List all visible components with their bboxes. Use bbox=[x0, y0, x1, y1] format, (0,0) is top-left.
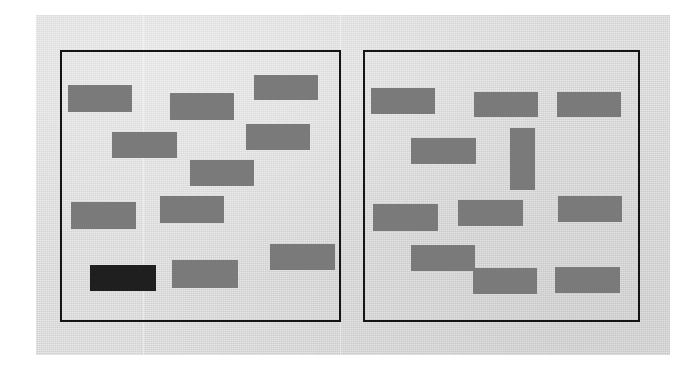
redacted-block bbox=[68, 85, 132, 112]
redacted-block bbox=[170, 93, 234, 120]
figure-root bbox=[0, 0, 695, 376]
redacted-block bbox=[254, 75, 318, 100]
redacted-block bbox=[246, 124, 310, 150]
redacted-block bbox=[373, 204, 438, 231]
redacted-block bbox=[71, 202, 136, 229]
redacted-block bbox=[270, 244, 335, 270]
redacted-block bbox=[371, 88, 435, 114]
redacted-block bbox=[411, 245, 475, 271]
redacted-block bbox=[555, 267, 620, 293]
redacted-block bbox=[160, 196, 224, 223]
redacted-block bbox=[458, 200, 523, 226]
redacted-block bbox=[112, 132, 177, 158]
redacted-block bbox=[190, 160, 254, 186]
redacted-block bbox=[473, 268, 537, 294]
redacted-block bbox=[474, 92, 538, 117]
redacted-block bbox=[557, 92, 621, 117]
redacted-block bbox=[510, 128, 535, 190]
right-panel bbox=[363, 50, 640, 322]
left-panel bbox=[60, 50, 341, 322]
redacted-block bbox=[558, 196, 622, 222]
redacted-block bbox=[172, 260, 238, 288]
redacted-block bbox=[90, 265, 156, 291]
redacted-block bbox=[411, 138, 476, 164]
